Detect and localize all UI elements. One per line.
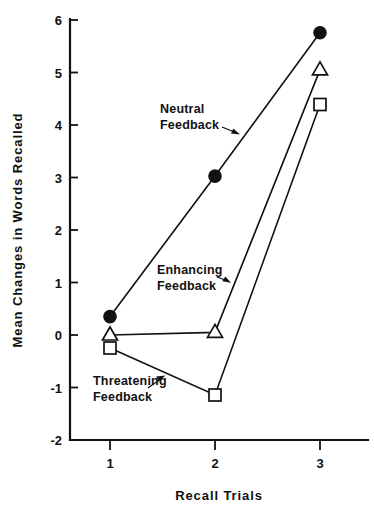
annotation-neutral-line1: Neutral: [160, 102, 204, 116]
y-axis-title: Mean Changes in Words Recalled: [10, 113, 25, 348]
x-tick-label-2: 2: [211, 456, 218, 471]
marker-open-triangle: [313, 62, 328, 75]
y-axis-ticks: [70, 20, 78, 440]
marker-open-square: [209, 389, 221, 401]
annotation-threatening-line1: Threatening: [93, 374, 167, 388]
y-tick-label-neg2: -2: [50, 433, 62, 448]
x-axis-title: Recall Trials: [175, 488, 263, 503]
annotation-enhancing-arrow-icon: [222, 277, 231, 283]
y-tick-label-0: 0: [55, 328, 62, 343]
y-tick-label-6: 6: [55, 13, 62, 28]
chart-figure: 6 5 4 3 2 1 0 -1 -2 1 2 3 Recall Trials …: [0, 0, 374, 507]
annotation-neutral-feedback: Neutral Feedback: [160, 102, 240, 135]
series-enhancing-feedback: [103, 62, 328, 340]
marker-open-square: [314, 99, 326, 111]
annotation-enhancing-line1: Enhancing: [157, 263, 223, 277]
x-tick-label-1: 1: [106, 456, 113, 471]
x-axis-tick-labels: 1 2 3: [106, 456, 323, 471]
marker-filled-circle: [104, 310, 116, 322]
y-tick-label-3: 3: [55, 171, 62, 186]
y-tick-label-5: 5: [55, 66, 62, 81]
y-tick-label-2: 2: [55, 223, 62, 238]
marker-open-triangle: [103, 327, 118, 340]
y-tick-label-neg1: -1: [50, 381, 62, 396]
annotation-enhancing-line2: Feedback: [157, 279, 216, 293]
annotation-neutral-line2: Feedback: [160, 118, 219, 132]
series-line-enhancing: [110, 70, 320, 335]
annotation-neutral-arrow-icon: [231, 129, 240, 135]
annotation-threatening-line2: Feedback: [93, 390, 152, 404]
y-tick-label-4: 4: [55, 118, 63, 133]
series-threatening-feedback: [104, 99, 326, 402]
x-axis-ticks: [110, 440, 320, 450]
marker-filled-circle: [314, 27, 326, 39]
annotation-enhancing-feedback: Enhancing Feedback: [157, 263, 231, 293]
line-chart-canvas: 6 5 4 3 2 1 0 -1 -2 1 2 3 Recall Trials …: [0, 0, 374, 507]
marker-open-triangle: [208, 324, 223, 337]
marker-filled-circle: [209, 170, 221, 182]
marker-open-square: [104, 342, 116, 354]
y-axis-tick-labels: 6 5 4 3 2 1 0 -1 -2: [50, 13, 62, 448]
x-tick-label-3: 3: [316, 456, 323, 471]
y-tick-label-1: 1: [55, 276, 62, 291]
annotation-threatening-feedback: Threatening Feedback: [93, 374, 167, 404]
